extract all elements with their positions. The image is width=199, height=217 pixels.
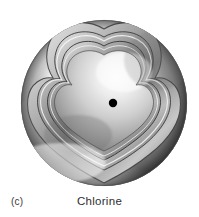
upper-right-shadow xyxy=(124,30,192,90)
atom-cutaway-illustration xyxy=(0,0,199,217)
chlorine-atom-figure: (c) Chlorine xyxy=(0,0,199,217)
nucleus-dot xyxy=(109,99,117,107)
